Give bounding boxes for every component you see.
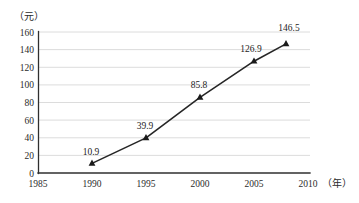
y-tick-label-80: 80 (25, 98, 35, 108)
x-tick-label-1995: 1995 (137, 179, 156, 189)
y-tick-label-0: 0 (29, 169, 34, 179)
line-chart: 160 140 120 100 80 60 40 20 0 1985 1990 … (0, 0, 359, 203)
value-label-1995: 39.9 (137, 121, 154, 131)
y-tick-label-120: 120 (20, 63, 35, 73)
x-tick-label-2010: 2010 (299, 179, 318, 189)
y-axis-unit-label: （元） (14, 11, 44, 22)
x-tick-label-1990: 1990 (83, 179, 102, 189)
y-tick-label-20: 20 (25, 151, 35, 161)
x-tick-label-2000: 2000 (191, 179, 210, 189)
y-tick-label-60: 60 (25, 116, 35, 126)
y-tick-label-40: 40 (25, 133, 35, 143)
x-tick-label-2005: 2005 (245, 179, 264, 189)
value-label-2000: 85.8 (191, 80, 208, 90)
y-tick-label-140: 140 (20, 45, 35, 55)
y-tick-label-160: 160 (20, 28, 35, 38)
x-tick-label-1985: 1985 (29, 179, 48, 189)
y-tick-label-100: 100 (20, 80, 35, 90)
x-axis-unit-label: （年） (322, 177, 352, 189)
value-label-2008: 146.5 (278, 23, 300, 33)
value-label-1990: 10.9 (83, 147, 100, 157)
value-label-2005: 126.9 (240, 44, 262, 54)
chart-page: 160 140 120 100 80 60 40 20 0 1985 1990 … (0, 0, 359, 203)
